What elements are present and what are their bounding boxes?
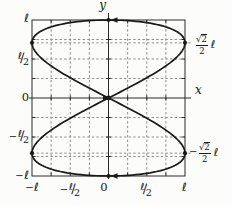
minus-sign: − [9,131,17,142]
y-tick-neg-ell: −ℓ [2,169,29,182]
x-tick-neg-ell: −ℓ [21,181,43,194]
x-tick-zero: 0 [96,181,112,193]
minus-sign: − [25,182,33,193]
figure-lissajous: y x ℓ ℓ∕2 0 −ℓ∕2 −ℓ −ℓ −ℓ∕2 0 ℓ∕2 ℓ √2 2… [0,0,232,205]
ell-symbol: ℓ [24,168,29,182]
frac-denominator: 2 [146,187,152,198]
y-tick-zero: 0 [8,91,29,103]
x-tick-ell: ℓ [176,181,193,193]
ell-symbol: ℓ [182,180,187,194]
annotation-neg-sqrt2-over-2-ell: − √2 2 ℓ [189,142,218,163]
y-axis-label: y [90,0,106,12]
x-tick-ell-half: ℓ∕2 [134,182,158,196]
lissajous-plot [0,0,232,205]
frac-denominator: 2 [74,187,80,198]
y-tick-ell: ℓ [8,12,29,24]
minus-sign: − [189,147,197,158]
ell-symbol: ℓ [34,180,39,194]
minus-sign: − [60,184,68,195]
y-tick-ell-half: ℓ∕2 [2,51,29,65]
minus-sign: − [15,170,23,181]
frac-denominator: 2 [199,46,204,56]
radicand: 2 [204,142,209,152]
frac-denominator: 2 [202,154,207,164]
y-tick-neg-ell-half: −ℓ∕2 [0,129,29,143]
radicand: 2 [201,34,206,44]
ell-symbol: ℓ [211,39,216,51]
frac-denominator: 2 [23,134,29,145]
x-axis-label: x [195,84,202,97]
ell-symbol: ℓ [214,147,219,159]
frac-denominator: 2 [23,56,29,67]
annotation-sqrt2-over-2-ell: √2 2 ℓ [195,32,215,55]
x-tick-neg-ell-half: −ℓ∕2 [55,182,85,196]
